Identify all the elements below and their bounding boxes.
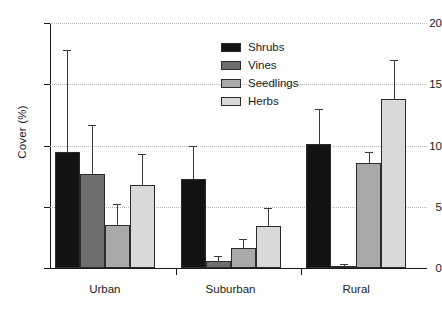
legend-label-vines: Vines: [248, 60, 277, 72]
bar-suburban-herbs: [256, 226, 281, 268]
x-group-separator-2: [301, 268, 302, 275]
bar-suburban-shrubs: [181, 179, 206, 268]
errorbar-suburban-herbs: [268, 208, 269, 226]
errorbar-suburban-seedlings: [243, 239, 244, 249]
errorbar-cap-suburban-shrubs: [189, 146, 197, 147]
bar-rural-shrubs: [306, 144, 331, 268]
errorbar-cap-rural-shrubs: [315, 109, 323, 110]
bar-urban-vines: [80, 174, 105, 268]
legend-swatch-vines: [221, 61, 241, 70]
legend-item-seedlings: Seedlings: [221, 76, 299, 91]
errorbar-urban-vines: [92, 125, 93, 174]
legend-item-vines: Vines: [221, 58, 299, 73]
errorbar-cap-urban-herbs: [138, 154, 146, 155]
errorbar-urban-shrubs: [67, 50, 68, 152]
errorbar-cap-urban-shrubs: [63, 50, 71, 51]
bar-rural-seedlings: [356, 163, 381, 268]
bar-rural-herbs: [381, 99, 406, 268]
errorbar-cap-rural-vines: [340, 264, 348, 265]
errorbar-cap-suburban-vines: [214, 256, 222, 257]
errorbar-rural-shrubs: [319, 109, 320, 145]
errorbar-cap-rural-seedlings: [365, 152, 373, 153]
errorbar-urban-seedlings: [117, 204, 118, 225]
x-tick-label-urban: Urban: [89, 283, 120, 295]
errorbar-rural-herbs: [394, 60, 395, 99]
legend-label-herbs: Herbs: [248, 96, 279, 108]
errorbar-cap-urban-seedlings: [113, 204, 121, 205]
legend-label-shrubs: Shrubs: [248, 42, 284, 54]
errorbar-cap-rural-herbs: [390, 60, 398, 61]
chart-legend: ShrubsVinesSeedlingsHerbs: [221, 40, 299, 112]
bar-rural-vines: [331, 266, 356, 268]
bar-urban-shrubs: [55, 152, 80, 268]
errorbar-rural-seedlings: [369, 152, 370, 163]
x-tick-label-suburban: Suburban: [206, 283, 256, 295]
legend-swatch-shrubs: [221, 43, 241, 52]
bar-urban-seedlings: [105, 225, 130, 268]
errorbar-urban-herbs: [142, 154, 143, 185]
errorbar-suburban-shrubs: [193, 146, 194, 179]
legend-swatch-seedlings: [221, 79, 241, 88]
bar-chart-figure: Cover (%) 05101520 UrbanSuburbanRural Sh…: [0, 0, 442, 310]
gridline-20: [50, 23, 427, 24]
x-tick-label-rural: Rural: [342, 283, 369, 295]
legend-swatch-herbs: [221, 97, 241, 106]
bar-suburban-seedlings: [231, 248, 256, 268]
y-axis-label: Cover (%): [16, 77, 28, 187]
errorbar-cap-suburban-herbs: [264, 208, 272, 209]
x-group-separator-1: [176, 268, 177, 275]
gridline-10: [50, 146, 427, 147]
legend-label-seedlings: Seedlings: [248, 78, 299, 90]
bar-urban-herbs: [130, 185, 155, 268]
legend-item-herbs: Herbs: [221, 94, 299, 109]
gridline-0: [50, 268, 427, 269]
bar-suburban-vines: [206, 261, 231, 268]
errorbar-cap-urban-vines: [88, 125, 96, 126]
legend-item-shrubs: Shrubs: [221, 40, 299, 55]
errorbar-cap-suburban-seedlings: [239, 239, 247, 240]
